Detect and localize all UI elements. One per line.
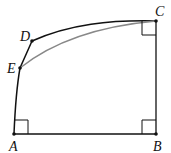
point-e xyxy=(18,66,22,70)
right-angle-a xyxy=(14,120,28,134)
point-a xyxy=(12,132,16,136)
right-angle-b xyxy=(142,120,156,134)
label-c: C xyxy=(155,4,165,19)
label-d: D xyxy=(19,29,30,44)
curve-a-e-d-c xyxy=(14,21,156,134)
right-angle-c xyxy=(142,21,156,35)
geometry-diagram: A B C D E xyxy=(0,0,171,153)
curve-e-c xyxy=(20,21,156,68)
label-b: B xyxy=(153,139,162,153)
label-e: E xyxy=(6,61,16,76)
point-c xyxy=(154,19,158,23)
point-b xyxy=(154,132,158,136)
label-a: A xyxy=(8,139,18,153)
point-d xyxy=(30,39,34,43)
